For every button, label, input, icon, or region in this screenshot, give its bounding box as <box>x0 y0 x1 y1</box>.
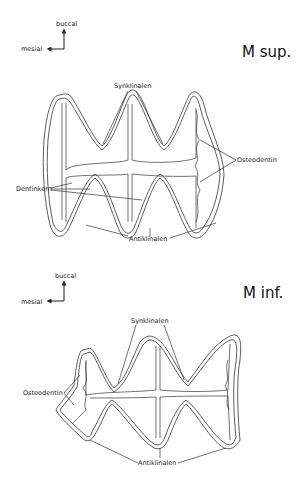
mesial-label: mesial <box>21 298 43 306</box>
osteodentin-label: Osteodentin <box>23 389 63 397</box>
dentinkern-label: Dentinkern <box>16 185 52 193</box>
mesial-label: mesial <box>21 45 43 53</box>
upper-molar-outline <box>43 90 224 238</box>
orientation-indicator: buccal mesial <box>21 272 76 306</box>
synklinalen-label: Synklinalen <box>131 317 169 325</box>
buccal-label: buccal <box>55 272 76 280</box>
panel-m-inf: buccal mesial M inf. Synklinalen Osteode… <box>21 272 283 467</box>
leader-lines <box>64 325 226 463</box>
panel-title: M inf. <box>243 284 283 302</box>
orientation-indicator: buccal mesial <box>21 20 77 53</box>
panel-title: M sup. <box>242 43 291 61</box>
synklinalen-label: Synklinalen <box>114 82 152 90</box>
leader-lines <box>51 91 236 238</box>
panel-m-sup: buccal mesial M sup. Synklinal <box>16 20 291 243</box>
osteodentin-label: Osteodentin <box>237 156 277 164</box>
lower-molar-outline <box>56 335 241 449</box>
antiklinalen-label: Antiklinalen <box>129 235 167 243</box>
antiklinalen-label: Antiklinalen <box>138 459 176 467</box>
buccal-label: buccal <box>56 20 77 28</box>
molar-diagram: buccal mesial M sup. Synklinal <box>0 0 301 480</box>
